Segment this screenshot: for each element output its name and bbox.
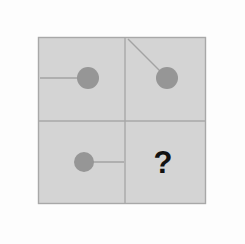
circle-bottom-left (74, 152, 94, 172)
question-mark-text: ? (154, 145, 173, 180)
circle-top-left (77, 67, 99, 89)
matrix-reasoning-puzzle: ? (0, 0, 245, 244)
puzzle-canvas: ? (0, 0, 245, 244)
cell-bottom-right[interactable]: ? (154, 145, 173, 180)
circle-top-right (156, 67, 178, 89)
